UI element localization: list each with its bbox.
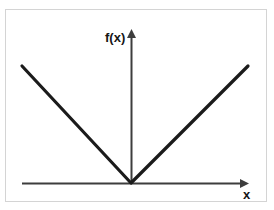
- absolute-value-curve: [22, 66, 248, 183]
- figure-root: f(x) x: [0, 0, 274, 210]
- y-axis-arrowhead: [127, 29, 136, 38]
- absolute-value-plot: f(x) x: [0, 0, 274, 210]
- y-axis-label: f(x): [105, 30, 125, 45]
- x-axis-label: x: [243, 187, 251, 202]
